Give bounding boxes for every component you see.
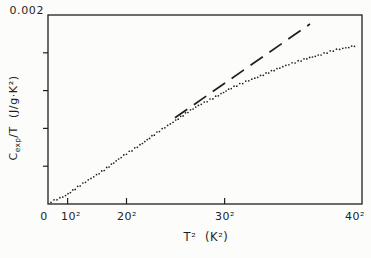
y-axis-title: Cexp/T (J/g·K²) <box>8 18 24 218</box>
x-tick-label-30sq: 30² <box>210 211 240 222</box>
y-axis-title-units: /T (J/g·K²) <box>7 75 20 137</box>
x-tick-label-20sq: 20² <box>112 211 142 222</box>
x-tick-label-10sq: 10² <box>56 211 86 222</box>
y-axis-max-tick-label: 0.002 <box>2 5 44 16</box>
x-tick-label-0: 0 <box>29 211 59 222</box>
x-axis-title: T² (K²) <box>154 232 258 244</box>
y-axis-title-subscript: exp <box>13 138 22 153</box>
specific-heat-chart: 0.002 Cexp/T (J/g·K²) 0 10² 20² 30² 40² … <box>0 0 371 258</box>
x-tick-label-40sq: 40² <box>340 211 370 222</box>
y-axis-title-symbol: C <box>7 152 20 160</box>
